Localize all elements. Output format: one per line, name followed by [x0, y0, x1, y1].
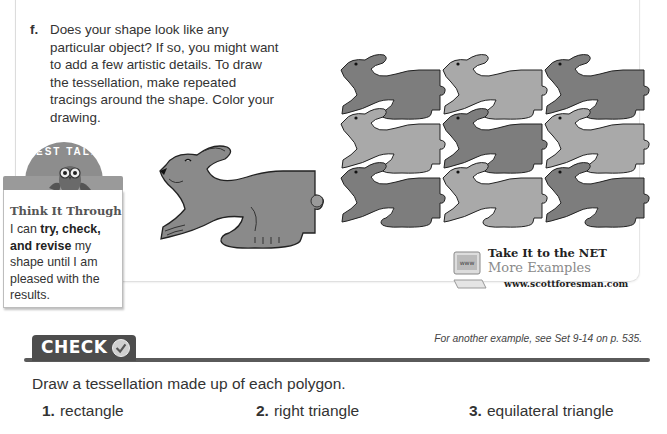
- exercise-text: equilateral triangle: [487, 402, 614, 419]
- rabbit-shape-figure: [155, 145, 335, 251]
- step-text: Does your shape look like any particular…: [50, 21, 280, 127]
- exercise-2: 2.right triangle: [256, 402, 359, 420]
- net-title: Take It to the NET: [488, 246, 607, 260]
- exercise-1: 1.rectangle: [42, 402, 124, 420]
- exercise-text: right triangle: [274, 402, 359, 419]
- exercise-3: 3.equilateral triangle: [469, 402, 614, 420]
- check-reference: For another example, see Set 9-14 on p. …: [434, 333, 642, 344]
- svg-text:www: www: [460, 259, 475, 266]
- rabbit-tessellation-figure: [336, 50, 656, 250]
- exercise-number: 1.: [42, 402, 55, 419]
- take-it-to-the-net-link[interactable]: www Take It to the NET More Examples www…: [448, 246, 648, 296]
- net-subtitle: More Examples: [488, 260, 591, 275]
- test-talk-label: TEST TALK: [25, 146, 103, 157]
- step-letter: f.: [30, 21, 38, 39]
- step-f: f. Does your shape look like any particu…: [30, 21, 280, 127]
- text-pre: I can: [10, 222, 40, 236]
- checkmark-icon: [112, 339, 130, 357]
- exercise-text: rectangle: [60, 402, 124, 419]
- test-talk-title: Think It Through: [10, 204, 116, 218]
- check-badge: CHECK: [32, 335, 136, 361]
- test-talk-body: Think It Through I can try, check, and r…: [3, 190, 123, 308]
- check-header: CHECK For another example, see Set 9-14 …: [24, 333, 650, 367]
- exercise-number: 2.: [256, 402, 269, 419]
- check-label: CHECK: [41, 337, 107, 357]
- test-talk-box: TEST TALK Think It Through I can try, ch…: [3, 142, 123, 310]
- exercise-number: 3.: [469, 402, 482, 419]
- test-talk-text: I can try, check, and revise my shape un…: [10, 221, 116, 304]
- net-url[interactable]: www.scottforesman.com: [504, 278, 628, 289]
- www-monitor-icon: www: [452, 250, 488, 292]
- exercise-instruction: Draw a tessellation made up of each poly…: [32, 375, 346, 393]
